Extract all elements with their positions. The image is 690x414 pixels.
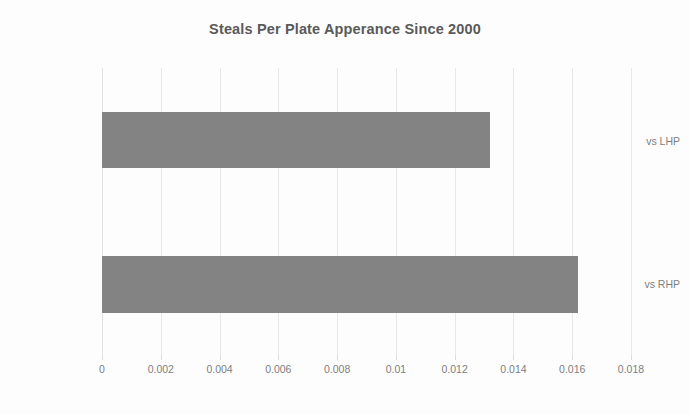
x-gridline [631, 68, 632, 355]
y-axis-category-label: vs LHP [590, 135, 680, 147]
x-axis-tick-label: 0.004 [206, 363, 232, 375]
chart-container: Steals Per Plate Apperance Since 2000 vs… [0, 0, 690, 414]
x-axis-tick-label: 0.01 [386, 363, 406, 375]
chart-title: Steals Per Plate Apperance Since 2000 [0, 21, 690, 37]
x-axis-tick [631, 355, 632, 360]
x-axis-tick [337, 355, 338, 360]
bar-vs-lhp[interactable] [102, 112, 490, 168]
y-axis-category-label: vs RHP [590, 278, 680, 290]
x-axis-tick-label: 0.002 [148, 363, 174, 375]
x-axis-tick-label: 0.016 [559, 363, 585, 375]
x-axis-tick [220, 355, 221, 360]
x-axis-tick-label: 0.014 [500, 363, 526, 375]
x-axis-tick [572, 355, 573, 360]
x-axis-tick-label: 0.018 [618, 363, 644, 375]
x-axis-tick [278, 355, 279, 360]
x-axis-tick [102, 355, 103, 360]
x-axis-tick [513, 355, 514, 360]
bar-vs-rhp[interactable] [102, 256, 578, 313]
x-axis-tick-label: 0.008 [324, 363, 350, 375]
x-axis-tick [455, 355, 456, 360]
x-axis-tick-label: 0 [99, 363, 105, 375]
plot-area [102, 68, 631, 355]
x-axis-tick [396, 355, 397, 360]
x-axis-tick [161, 355, 162, 360]
x-axis-tick-label: 0.012 [442, 363, 468, 375]
x-axis-tick-label: 0.006 [265, 363, 291, 375]
